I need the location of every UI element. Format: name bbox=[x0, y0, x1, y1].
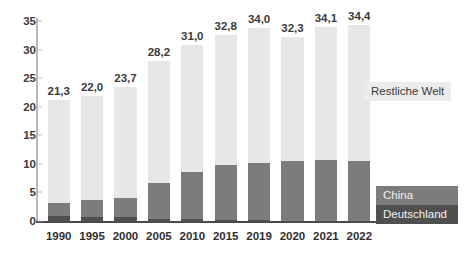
x-axis-label-2015: 2015 bbox=[213, 230, 239, 242]
bar-value-label-2021: 34,1 bbox=[315, 12, 337, 24]
segment-restliche-welt[interactable] bbox=[81, 96, 103, 199]
segment-china[interactable] bbox=[215, 165, 237, 219]
bar-stack bbox=[148, 61, 170, 222]
segment-china[interactable] bbox=[181, 172, 203, 219]
segment-deutschland[interactable] bbox=[114, 217, 136, 222]
bar-group-2010[interactable]: 31,02010 bbox=[181, 45, 203, 222]
bar-group-2022[interactable]: 34,42022 bbox=[348, 25, 370, 222]
x-axis-label-1995: 1995 bbox=[79, 230, 105, 242]
segment-deutschland[interactable] bbox=[181, 219, 203, 222]
x-axis-label-2022: 2022 bbox=[346, 230, 372, 242]
segment-china[interactable] bbox=[315, 160, 337, 221]
segment-deutschland[interactable] bbox=[315, 221, 337, 222]
bar-group-1995[interactable]: 22,01995 bbox=[81, 96, 103, 222]
segment-china[interactable] bbox=[248, 163, 270, 220]
bar-stack bbox=[248, 28, 270, 222]
segment-china[interactable] bbox=[114, 198, 136, 217]
bar-group-1990[interactable]: 21,31990 bbox=[48, 100, 70, 222]
bar-group-2021[interactable]: 34,12021 bbox=[315, 27, 337, 222]
segment-china[interactable] bbox=[348, 161, 370, 221]
bar-value-label-2020: 32,3 bbox=[281, 22, 303, 34]
segment-deutschland[interactable] bbox=[215, 220, 237, 222]
segment-china[interactable] bbox=[48, 203, 70, 217]
segment-deutschland[interactable] bbox=[48, 216, 70, 222]
bar-stack bbox=[181, 45, 203, 222]
bar-group-2005[interactable]: 28,22005 bbox=[148, 61, 170, 222]
bar-value-label-2019: 34,0 bbox=[248, 13, 270, 25]
stacked-bar-chart: 05101520253035 21,3199022,0199523,720002… bbox=[0, 0, 465, 260]
segment-china[interactable] bbox=[148, 183, 170, 218]
segment-deutschland[interactable] bbox=[148, 219, 170, 222]
segment-restliche-welt[interactable] bbox=[315, 27, 337, 160]
bar-stack bbox=[281, 37, 303, 222]
segment-china[interactable] bbox=[281, 161, 303, 221]
x-axis-label-2019: 2019 bbox=[246, 230, 272, 242]
bar-value-label-2022: 34,4 bbox=[348, 10, 370, 22]
bar-value-label-1990: 21,3 bbox=[47, 85, 69, 97]
legend-item-restliche-welt[interactable]: Restliche Welt bbox=[364, 82, 451, 101]
bar-group-2000[interactable]: 23,72000 bbox=[114, 87, 136, 222]
bar-group-2019[interactable]: 34,02019 bbox=[248, 28, 270, 222]
bar-stack bbox=[315, 27, 337, 222]
segment-restliche-welt[interactable] bbox=[281, 37, 303, 160]
bar-group-2015[interactable]: 32,82015 bbox=[215, 35, 237, 222]
bar-stack bbox=[81, 96, 103, 222]
segment-deutschland[interactable] bbox=[81, 217, 103, 222]
segment-china[interactable] bbox=[81, 200, 103, 217]
segment-deutschland[interactable] bbox=[348, 221, 370, 222]
x-axis-label-2020: 2020 bbox=[280, 230, 306, 242]
x-axis-label-1990: 1990 bbox=[46, 230, 72, 242]
x-axis-label-2010: 2010 bbox=[179, 230, 205, 242]
segment-restliche-welt[interactable] bbox=[148, 61, 170, 183]
legend-item-china[interactable]: China bbox=[376, 186, 458, 205]
segment-restliche-welt[interactable] bbox=[114, 87, 136, 198]
segment-deutschland[interactable] bbox=[281, 221, 303, 222]
bar-stack bbox=[48, 100, 70, 222]
segment-restliche-welt[interactable] bbox=[48, 100, 70, 202]
bar-group-2020[interactable]: 32,32020 bbox=[281, 37, 303, 222]
segment-restliche-welt[interactable] bbox=[181, 45, 203, 172]
legend-item-deutschland[interactable]: Deutschland bbox=[376, 205, 458, 224]
bar-stack bbox=[114, 87, 136, 222]
x-axis-label-2021: 2021 bbox=[313, 230, 339, 242]
x-axis-label-2000: 2000 bbox=[113, 230, 139, 242]
bar-value-label-2005: 28,2 bbox=[148, 46, 170, 58]
bar-value-label-2000: 23,7 bbox=[114, 72, 136, 84]
bar-stack bbox=[215, 35, 237, 222]
x-axis-label-2005: 2005 bbox=[146, 230, 172, 242]
bar-value-label-2015: 32,8 bbox=[214, 20, 236, 32]
segment-deutschland[interactable] bbox=[248, 220, 270, 222]
bar-value-label-2010: 31,0 bbox=[181, 30, 203, 42]
segment-restliche-welt[interactable] bbox=[248, 28, 270, 163]
bar-value-label-1995: 22,0 bbox=[81, 81, 103, 93]
segment-restliche-welt[interactable] bbox=[215, 35, 237, 166]
bar-stack bbox=[348, 25, 370, 222]
